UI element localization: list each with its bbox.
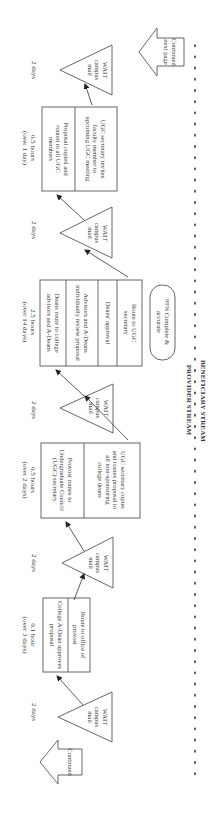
process-3-step-4: Route to UGC secretary: [122, 293, 137, 353]
process-time-1: 0.1 hour (over 3 days): [21, 617, 37, 654]
process-time-3-hours: 2.5 hours: [29, 302, 37, 342]
process-2-step-2: UGC secretary copies and routes proposal…: [97, 447, 127, 513]
wait-label: mail: [87, 223, 95, 243]
process-4-step-2: UGC secretary invites faculty member to …: [85, 111, 108, 187]
wait-node-4-label: WAIT campus mail: [87, 223, 110, 243]
continued-label: Continued: [66, 748, 74, 775]
wait-label: WAIT: [103, 398, 111, 418]
wait-label: campus: [94, 223, 102, 243]
wait-label: WAIT: [102, 60, 110, 80]
wait-label: campus: [94, 707, 102, 727]
wait-label: WAIT: [102, 707, 110, 727]
process-4-step-1: Proposal copied and routed to all UGC me…: [47, 115, 70, 183]
process-time-3: 2.5 hours (over 14 days): [21, 302, 37, 342]
wait-label: mail: [88, 398, 96, 418]
wait-duration-3: 2 days: [30, 401, 38, 419]
continued-arrow-shape: [40, 740, 82, 784]
process-time-2: 0.5 hours (over 2 days): [21, 462, 37, 499]
wait-label: mail: [87, 60, 95, 80]
process-time-1-hours: 0.1 hour: [29, 617, 37, 654]
process-time-4-elapsed: (over 1 day): [21, 131, 29, 165]
wait-label: campus: [95, 553, 103, 573]
quality-badge: 99% Complete & accurate: [155, 295, 170, 349]
wait-duration-2: 2 days: [30, 554, 38, 572]
process-time-4-hours: 0.5 hours: [29, 131, 37, 165]
process-3-step-1: Deans route to college advisors and A-De…: [45, 283, 60, 363]
wait-duration-1: 2 days: [30, 703, 38, 721]
process-time-2-hours: 0.5 hours: [29, 462, 37, 499]
wait-duration-5: 2 days: [30, 61, 38, 79]
wait-label: campus: [95, 398, 103, 418]
wait-node-3-label: WAIT campus mail: [88, 398, 111, 418]
process-1-step-2: Route to office of provost: [71, 602, 86, 668]
process-1-step-1: College A-Dean approves proposal: [48, 600, 63, 670]
beneficiary-stream-label: BENEFICIARY STREAM: [199, 360, 207, 442]
process-time-2-elapsed: (over 2 days): [21, 462, 29, 499]
process-3-step-3: Deans' approval: [104, 283, 112, 363]
process-time-3-elapsed: (over 14 days): [21, 302, 29, 342]
wait-node-1-label: WAIT campus mail: [87, 707, 110, 727]
wait-node-5-label: WAIT campus mail: [87, 60, 110, 80]
process-time-1-elapsed: (over 3 days): [21, 617, 29, 654]
provider-stream-label: PROVIDER STREAM: [185, 365, 193, 436]
wait-duration-4: 2 days: [30, 221, 38, 239]
wait-label: mail: [88, 553, 96, 573]
wait-label: WAIT: [102, 223, 110, 243]
process-time-4: 0.5 hours (over 1 day): [21, 131, 37, 165]
wait-node-2-label: WAIT campus mail: [88, 553, 111, 573]
continued-next-page-label: Continued next page: [162, 37, 177, 67]
wait-label: WAIT: [103, 553, 111, 573]
wait-label: campus: [94, 60, 102, 80]
process-2-step-1: Provost routes to Undergraduate Council …: [51, 449, 74, 511]
wait-label: mail: [87, 707, 95, 727]
process-3-step-2: Advisors and A-Deans individually review…: [74, 285, 89, 361]
